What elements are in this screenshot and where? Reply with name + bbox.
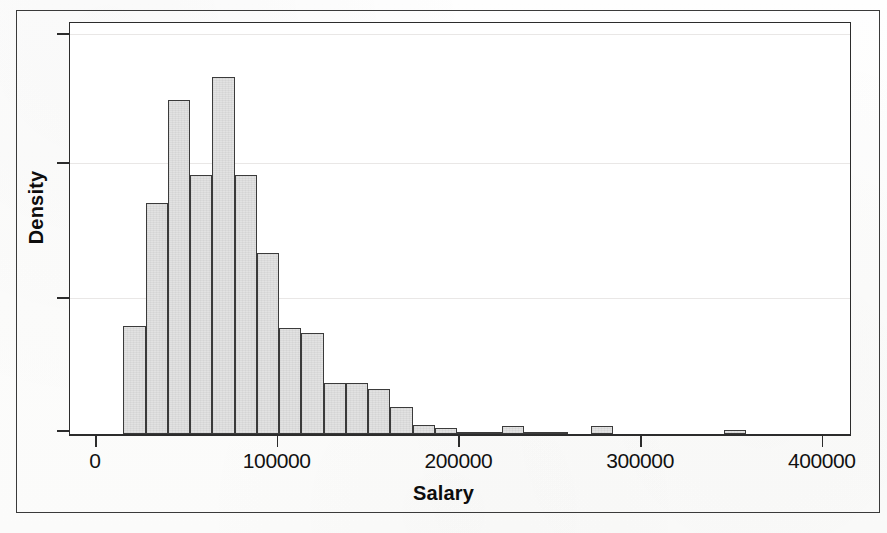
histogram-bar	[279, 328, 301, 434]
x-axis-tick	[95, 436, 97, 447]
histogram-bar	[146, 203, 168, 434]
x-axis-tick-label: 0	[0, 449, 195, 473]
histogram-bar	[390, 407, 412, 434]
histogram-bar	[591, 426, 613, 434]
x-axis-tick-label: 300000	[540, 449, 740, 473]
x-axis-tick-label: 100000	[177, 449, 377, 473]
histogram-bar	[457, 432, 479, 434]
histogram-bar	[168, 100, 190, 434]
histogram-bar	[190, 175, 212, 434]
x-axis-tick	[822, 436, 824, 447]
x-axis-tick-label: 200000	[358, 449, 558, 473]
y-axis-tick	[57, 162, 69, 164]
histogram-bar	[324, 383, 346, 434]
histogram-bar	[724, 430, 746, 434]
histogram-bar	[524, 432, 546, 434]
histogram-bar	[479, 432, 501, 434]
histogram-bar	[123, 326, 145, 434]
histogram-bar	[346, 383, 368, 434]
x-axis-tick	[458, 436, 460, 447]
y-axis-title: Density	[25, 158, 48, 258]
x-axis-title: Salary	[0, 482, 887, 505]
histogram-bars	[69, 22, 851, 434]
y-axis-tick	[57, 297, 69, 299]
histogram-bar	[502, 426, 524, 434]
histogram-bar	[368, 389, 390, 434]
histogram-bar	[257, 253, 279, 434]
y-axis-tick	[57, 430, 69, 432]
histogram-bar	[546, 432, 568, 434]
x-axis-tick-label: 400000	[722, 449, 887, 473]
histogram-bar	[212, 77, 234, 434]
x-axis-tick	[277, 436, 279, 447]
histogram-bar	[435, 428, 457, 434]
histogram-bar	[235, 175, 257, 434]
histogram-bar	[301, 333, 323, 434]
x-axis-tick	[640, 436, 642, 447]
histogram-bar	[413, 425, 435, 434]
y-axis-tick	[57, 33, 69, 35]
